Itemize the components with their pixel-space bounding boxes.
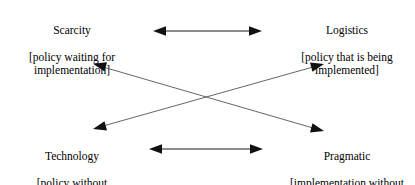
arrowhead-upperright-logistics [310,62,324,71]
arrowhead-lowerright-pragmatic [310,123,324,132]
connector-arrows-layer [0,0,415,185]
connector-technology-pragmatic [149,144,263,154]
arrowhead-lowerleft-technology [93,121,107,130]
connector-technology-logistics [93,62,324,130]
connector-scarcity-pragmatic [93,62,324,132]
arrowhead-upperleft-scarcity [93,62,107,71]
arrowhead-right-pragmatic [250,144,263,154]
arrowhead-left-scarcity [153,26,166,36]
arrowhead-left-technology [149,144,162,154]
quadrant-diagram: Scarcity [policy waiting for implementat… [0,0,415,185]
arrowhead-right-logistics [249,26,262,36]
connector-scarcity-logistics [153,26,262,36]
